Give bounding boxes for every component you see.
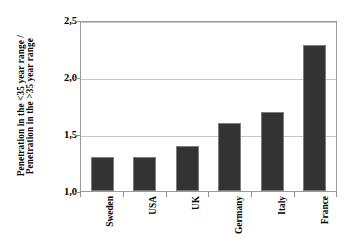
bar-germany xyxy=(218,123,241,191)
bar-slot-uk xyxy=(166,22,209,191)
category-label-france: France xyxy=(320,196,329,224)
category-label-uk: UK xyxy=(192,196,201,210)
bar-slot-italy xyxy=(251,22,294,191)
bar-italy xyxy=(261,112,284,191)
y-axis-title-line-2: Penetration in the >35 year range xyxy=(26,38,35,174)
bar-slot-germany xyxy=(209,22,252,191)
y-tick-label-1: 1,0 xyxy=(46,187,77,198)
cat-slot-1: USA xyxy=(123,196,166,251)
cat-slot-5: France xyxy=(294,196,337,251)
y-tick-label-4: 2,5 xyxy=(46,16,77,27)
category-label-italy: Italy xyxy=(277,196,286,215)
bar-slot-france xyxy=(294,22,337,191)
y-axis-title: Penetration in the <35 year range / Pene… xyxy=(11,8,41,204)
cat-slot-3: Germany xyxy=(208,196,251,251)
category-label-usa: USA xyxy=(149,196,158,215)
bar-sweden xyxy=(91,157,114,191)
bar-usa xyxy=(133,157,156,191)
category-label-germany: Germany xyxy=(235,196,244,234)
cat-slot-4: Italy xyxy=(251,196,294,251)
y-axis-tick-labels: 1,0 1,5 2,0 2,5 xyxy=(46,0,77,251)
bar-france xyxy=(303,45,326,191)
chart-figure: Penetration in the <35 year range / Pene… xyxy=(0,0,351,251)
category-label-sweden: Sweden xyxy=(106,196,115,227)
bar-slot-usa xyxy=(124,22,167,191)
bar-uk xyxy=(176,146,199,191)
x-axis-category-labels: Sweden USA UK Germany Italy France xyxy=(80,196,337,251)
y-tick-label-2: 1,5 xyxy=(46,130,77,141)
bar-slot-sweden xyxy=(81,22,124,191)
plot-area xyxy=(80,21,337,192)
cat-slot-0: Sweden xyxy=(80,196,123,251)
cat-slot-2: UK xyxy=(166,196,209,251)
bars-layer xyxy=(81,22,336,191)
y-tick-label-3: 2,0 xyxy=(46,73,77,84)
